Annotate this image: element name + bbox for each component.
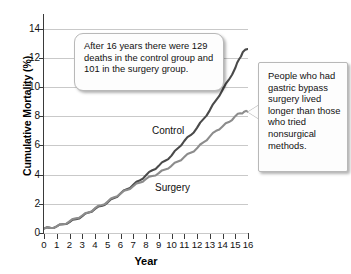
y-tick-label: 12: [10, 53, 40, 63]
y-tick-mark: [39, 58, 44, 59]
series-label-surgery: Surgery: [155, 182, 190, 193]
callout-deaths-note: After 16 years there were 129 deaths in …: [74, 33, 224, 91]
y-tick-label: 2: [10, 199, 40, 209]
series-label-control: Control: [152, 125, 184, 136]
x-tick-label: 16: [240, 239, 256, 250]
y-tick-label: 14: [10, 24, 40, 34]
y-tick-mark: [39, 29, 44, 30]
y-tick-mark: [39, 175, 44, 176]
y-tick-label: 4: [10, 170, 40, 180]
y-tick-mark: [39, 87, 44, 88]
callout-survival-note: People who had gastric bypass surgery li…: [258, 62, 348, 172]
y-tick-label: 10: [10, 82, 40, 92]
y-axis-tick-labels: 02468101214: [8, 0, 40, 274]
y-tick-mark: [39, 145, 44, 146]
y-tick-label: 0: [10, 228, 40, 238]
line-surgery: [44, 111, 248, 229]
chart-figure: Cumulative Mortality (%) 02468101214 Con…: [0, 0, 351, 274]
x-axis-title: Year: [44, 255, 248, 267]
y-tick-mark: [39, 204, 44, 205]
y-tick-mark: [39, 116, 44, 117]
y-tick-label: 8: [10, 111, 40, 121]
y-tick-mark: [39, 233, 44, 234]
y-tick-label: 6: [10, 140, 40, 150]
